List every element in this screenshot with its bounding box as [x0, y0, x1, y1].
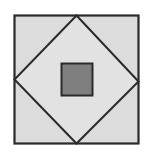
nested-squares-diagram: [0, 0, 147, 154]
center-square: [62, 64, 93, 96]
